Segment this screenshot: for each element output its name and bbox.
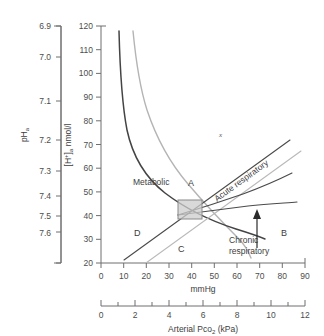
ph-axis-title-sub: a	[24, 127, 30, 131]
kpa-axis-major-ticks	[101, 300, 305, 306]
ph-tick-1: 7.0	[39, 52, 51, 62]
mmhg-tick-7: 70	[255, 271, 265, 281]
mmhg-axis-ticks	[101, 263, 305, 268]
h-tick-7: 50	[84, 187, 94, 197]
ph-tick-6: 7.5	[39, 211, 51, 221]
h-concentration-axis: 120 110 100 90 80 70 60 50 40 30 20 [H+]…	[63, 21, 101, 268]
mmhg-tick-0: 0	[99, 271, 104, 281]
ph-tick-4: 7.3	[39, 166, 51, 176]
h-tick-2: 100	[79, 68, 93, 78]
h-tick-10: 20	[84, 258, 94, 268]
h-axis-title: [H+]a nmol/l	[63, 124, 74, 167]
ph-axis-title-main: pH	[19, 131, 29, 142]
kpa-tick-4: 8	[235, 310, 240, 320]
mmhg-axis: 0 10 20 30 40 50 60 70 80 90 mmHg	[99, 263, 310, 294]
ph-tick-2: 7.1	[39, 96, 51, 106]
acid-base-nomogram-figure: 6.9 7.0 7.1 7.2 7.3 7.4 7.5 7.6 pHa	[0, 0, 324, 336]
label-point-d: D	[134, 228, 141, 238]
h-tick-6: 60	[84, 163, 94, 173]
kpa-axis-title: Arterial Pco2 (kPa)	[168, 324, 238, 335]
ph-axis: 6.9 7.0 7.1 7.2 7.3 7.4 7.5 7.6 pHa	[19, 21, 61, 263]
mmhg-tick-9: 90	[300, 271, 310, 281]
ph-axis-ticks	[56, 26, 61, 263]
kpa-tick-3: 6	[201, 310, 206, 320]
mmhg-tick-1: 10	[119, 271, 129, 281]
mmhg-tick-3: 30	[164, 271, 174, 281]
ph-tick-5: 7.4	[39, 191, 51, 201]
kpa-tick-1: 2	[133, 310, 138, 320]
h-tick-1: 110	[79, 45, 93, 55]
label-point-b: B	[281, 228, 287, 238]
mmhg-tick-5: 50	[210, 271, 220, 281]
line-acute-respiratory-light	[146, 151, 301, 263]
ph-axis-title: pHa	[19, 127, 30, 142]
label-point-c: C	[178, 244, 185, 254]
kpa-tick-0: 0	[99, 310, 104, 320]
h-tick-4: 80	[84, 116, 94, 126]
kpa-tick-5: 10	[266, 310, 276, 320]
label-metabolic: Metabolic	[133, 177, 170, 187]
label-chronic-respiratory-line1: Chronic	[229, 235, 259, 245]
label-point-a: A	[188, 178, 194, 188]
svg-text:[H+]a nmol/l: [H+]a nmol/l	[63, 124, 74, 167]
marker-x-annotation: x	[218, 131, 223, 139]
label-acute-respiratory-text: Acute respiratory	[212, 157, 270, 203]
label-acute-respiratory: Acute respiratory	[212, 157, 270, 203]
mmhg-tick-4: 40	[187, 271, 197, 281]
normal-range-box	[178, 200, 202, 219]
kpa-tick-6: 12	[300, 310, 310, 320]
ph-tick-0: 6.9	[39, 21, 51, 31]
h-tick-9: 30	[84, 234, 94, 244]
h-axis-title-unit: nmol/l	[63, 124, 73, 149]
mmhg-tick-2: 20	[142, 271, 152, 281]
kpa-axis-title-main: Arterial Pco	[168, 324, 212, 334]
mmhg-tick-6: 60	[232, 271, 242, 281]
h-axis-title-main: [H	[63, 158, 73, 167]
h-tick-0: 120	[79, 21, 93, 31]
h-tick-5: 70	[84, 140, 94, 150]
ph-tick-7: 7.6	[39, 228, 51, 238]
plot-data-area	[119, 31, 301, 263]
svg-text:pHa: pHa	[19, 127, 30, 142]
h-tick-3: 90	[84, 92, 94, 102]
mmhg-axis-title: mmHg	[190, 284, 215, 294]
line-acute-respiratory-dark	[124, 140, 290, 260]
kpa-axis: 0 2 4 6 8 10 12 Arterial Pco2 (kPa)	[99, 300, 310, 335]
curve-metabolic-light	[133, 31, 251, 258]
kpa-tick-2: 4	[167, 310, 172, 320]
kpa-axis-title-unit: (kPa)	[215, 324, 238, 334]
ph-tick-3: 7.2	[39, 135, 51, 145]
label-chronic-respiratory-line2: respiratory	[229, 246, 270, 256]
mmhg-tick-8: 80	[278, 271, 288, 281]
h-axis-ticks	[96, 26, 101, 263]
h-tick-8: 40	[84, 211, 94, 221]
